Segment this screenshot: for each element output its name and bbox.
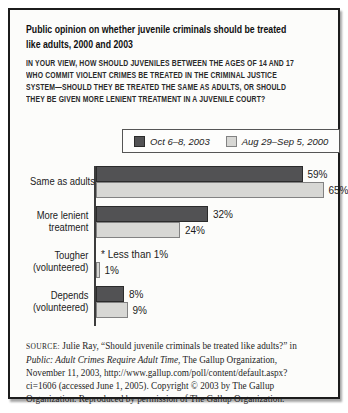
bar-2000: [96, 262, 100, 278]
bar-group: 8%9%: [96, 286, 348, 318]
value-label: 8%: [129, 289, 143, 300]
chart-legend: Oct 6–8, 2003 Aug 29–Sep 5, 2000: [122, 129, 340, 153]
survey-question: IN YOUR VIEW, HOW SHOULD JUVENILES BETWE…: [26, 57, 332, 105]
category-label: More lenienttreatment: [30, 206, 94, 238]
source-line-2: Public: Adult Crimes Require Adult Time,…: [26, 353, 295, 366]
footnote-value-label: * Less than 1%: [101, 249, 168, 260]
source-label: SOURCE:: [26, 341, 60, 351]
bar-group: 59%65%: [96, 166, 348, 198]
survey-question-line-3: SYSTEM—SHOULD THEY BE TREATED THE SAME A…: [26, 81, 259, 93]
bar-slot-2000: 24%: [96, 222, 348, 238]
category-axis: Same as adultsMore lenienttreatmentTough…: [26, 166, 94, 326]
legend-swatch-2003-icon: [134, 136, 145, 147]
bar-2000: [96, 222, 180, 238]
value-label: 65%: [329, 185, 348, 196]
source-line-4: ci=1606 (accessed June 1, 2005). Copyrig…: [26, 379, 295, 392]
bar-2003: [96, 286, 124, 302]
bar-group: 32%24%: [96, 206, 348, 238]
bar-chart: Same as adultsMore lenienttreatmentTough…: [26, 166, 332, 326]
source-line-5: Organization. Reproduced by permission o…: [26, 392, 295, 405]
value-label: 1%: [105, 265, 119, 276]
bar-2003: [96, 206, 208, 222]
value-label: 59%: [308, 169, 328, 180]
category-label: Depends(volunteered): [30, 286, 94, 318]
bar-slot-2003: 8%: [96, 286, 348, 302]
legend-item-2000: Aug 29–Sep 5, 2000: [226, 136, 329, 147]
bar-slot-2000: 1%: [96, 262, 348, 278]
bar-2000: [96, 182, 324, 198]
legend-swatch-2000-icon: [226, 136, 237, 147]
survey-question-line-1: IN YOUR VIEW, HOW SHOULD JUVENILES BETWE…: [26, 57, 259, 69]
bar-slot-2003: 59%: [96, 166, 348, 182]
survey-question-line-2: WHO COMMIT VIOLENT CRIMES BE TREATED IN …: [26, 69, 259, 81]
bar-group: * Less than 1%1%: [96, 246, 348, 278]
source-line-3: November 11, 2003, http://www.gallup.com…: [26, 366, 295, 379]
category-label: Same as adults: [30, 166, 94, 198]
survey-question-line-4: THEY BE GIVEN MORE LENIENT TREATMENT IN …: [26, 93, 259, 105]
source-work-title: Public: Adult Crimes Require Adult Time: [26, 354, 178, 365]
legend-label-2003: Oct 6–8, 2003: [150, 136, 210, 147]
legend-item-2003: Oct 6–8, 2003: [134, 136, 210, 147]
bar-slot-2000: 9%: [96, 302, 348, 318]
legend-label-2000: Aug 29–Sep 5, 2000: [242, 136, 329, 147]
source-line-1: SOURCE: Julie Ray, “Should juvenile crim…: [26, 339, 295, 353]
bar-2000: [96, 302, 128, 318]
bar-slot-2000: 65%: [96, 182, 348, 198]
figure-title-line-1: Public opinion on whether juvenile crimi…: [26, 22, 259, 37]
value-label: 24%: [185, 225, 205, 236]
value-label: 32%: [213, 209, 233, 220]
bar-slot-2003: * Less than 1%: [96, 246, 348, 262]
category-label: Tougher(volunteered): [30, 246, 94, 278]
value-label: 9%: [133, 305, 147, 316]
source-note: SOURCE: Julie Ray, “Should juvenile crim…: [26, 339, 332, 405]
figure-title: Public opinion on whether juvenile crimi…: [26, 22, 332, 52]
figure-title-line-2: like adults, 2000 and 2003: [26, 37, 259, 52]
bar-slot-2003: 32%: [96, 206, 348, 222]
bar-2003: [96, 166, 303, 182]
figure-box: Public opinion on whether juvenile crimi…: [8, 8, 340, 399]
plot-area: 59%65%32%24%* Less than 1%1%8%9%: [94, 166, 348, 326]
